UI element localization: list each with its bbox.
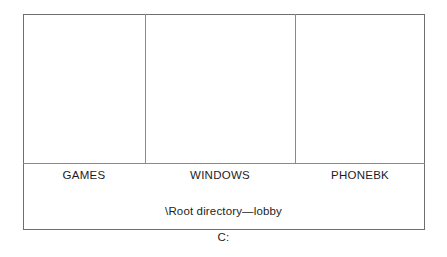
folder-label-windows: WINDOWS [145,165,295,185]
folder-label-rule [23,163,425,164]
root-directory-caption: \Root directory—lobby [0,205,447,217]
folder-label-games: GAMES [23,165,145,185]
drive-root-box [23,14,425,230]
folder-divider-2 [295,14,296,163]
folder-label-phonebk: PHONEBK [295,165,425,185]
directory-tree-diagram: GAMES WINDOWS PHONEBK \Root directory—lo… [0,0,447,257]
root-directory-caption-text: \Root directory—lobby [161,205,286,217]
drive-letter-label: C: [0,231,447,243]
folder-divider-1 [145,14,146,163]
folder-label-row: GAMES WINDOWS PHONEBK [23,165,425,185]
